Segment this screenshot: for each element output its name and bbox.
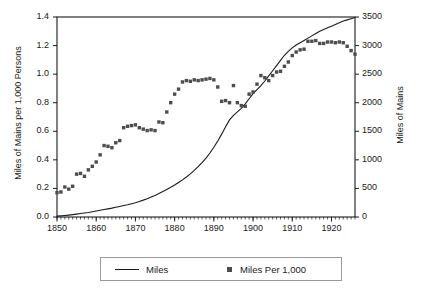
data-point-marker [126,125,129,128]
data-point-marker [142,127,145,130]
data-point-marker [208,77,211,80]
plot-frame [57,17,355,217]
data-point-marker [165,110,168,113]
data-point-marker [173,92,176,95]
data-point-marker [204,77,207,80]
y-tick-label-right: 3000 [362,40,396,50]
data-point-marker [298,48,301,51]
y-tick-label-left: 0.4 [19,154,49,164]
data-point-marker [161,121,164,124]
data-point-marker [169,101,172,104]
x-tick-label: 1870 [115,223,155,233]
data-point-marker [349,49,352,52]
chart-legend: Miles Miles Per 1,000 [100,257,342,281]
data-point-marker [102,144,105,147]
data-point-marker [251,90,254,93]
data-point-marker [345,45,348,48]
data-point-marker [122,126,125,129]
data-point-marker [130,124,133,127]
data-point-marker [114,141,117,144]
data-point-marker [55,191,58,194]
data-point-marker [314,39,317,42]
data-point-marker [98,153,101,156]
data-point-marker [353,52,356,55]
data-point-marker [247,92,250,95]
data-point-marker [138,126,141,129]
data-point-marker [302,47,305,50]
data-point-marker [87,168,90,171]
data-point-marker [228,101,231,104]
legend-label-miles-per-thousand: Miles Per 1,000 [240,264,306,275]
data-point-marker [271,74,274,77]
square-swatch-icon [227,267,232,272]
data-point-marker [149,128,152,131]
data-point-marker [118,139,121,142]
data-point-marker [342,41,345,44]
data-point-marker [283,65,286,68]
data-point-marker [75,172,78,175]
data-point-marker [193,78,196,81]
data-point-marker [263,76,266,79]
y-tick-label-left: 1.0 [19,68,49,78]
y-tick-label-left: 1.4 [19,11,49,21]
data-point-marker [200,78,203,81]
legend-item-miles: Miles [115,258,223,280]
data-point-marker [334,41,337,44]
y-tick-label-left: 0.6 [19,125,49,135]
data-point-marker [255,82,258,85]
y-tick-label-left: 0.0 [19,211,49,221]
data-point-marker [310,40,313,43]
data-point-marker [177,87,180,90]
y-tick-label-right: 3500 [362,11,396,21]
data-point-marker [294,50,297,53]
data-point-marker [224,99,227,102]
data-point-marker [59,190,62,193]
data-point-marker [267,79,270,82]
data-point-marker [240,104,243,107]
line-swatch-icon [115,269,139,270]
data-point-marker [110,146,113,149]
data-point-marker [71,185,74,188]
y-tick-label-right: 2000 [362,97,396,107]
y-tick-label-right: 1000 [362,154,396,164]
y-tick-label-left: 0.2 [19,182,49,192]
data-point-marker [216,85,219,88]
y-tick-label-right: 2500 [362,68,396,78]
data-point-marker [287,60,290,63]
data-point-marker [291,54,294,57]
data-point-marker [185,79,188,82]
x-tick-label: 1890 [194,223,234,233]
y-tick-label-left: 0.8 [19,97,49,107]
y-tick-label-left: 1.2 [19,40,49,50]
y-tick-label-right: 500 [362,182,396,192]
data-point-marker [275,70,278,73]
x-tick-label: 1860 [76,223,116,233]
data-point-marker [106,145,109,148]
data-point-marker [326,40,329,43]
data-point-marker [232,84,235,87]
x-tick-label: 1850 [37,223,77,233]
data-point-marker [189,80,192,83]
data-point-marker [322,42,325,45]
data-point-marker [67,187,70,190]
data-point-marker [318,42,321,45]
data-point-marker [145,129,148,132]
data-point-marker [79,172,82,175]
data-point-marker [157,120,160,123]
data-point-marker [181,80,184,83]
data-point-marker [83,175,86,178]
data-point-marker [338,40,341,43]
data-point-marker [153,129,156,132]
x-tick-label: 1910 [272,223,312,233]
data-point-marker [63,185,66,188]
legend-item-miles-per-thousand: Miles Per 1,000 [227,258,306,280]
data-point-marker [244,105,247,108]
y-tick-label-right: 0 [362,211,396,221]
y-tick-label-right: 1500 [362,125,396,135]
data-point-marker [330,40,333,43]
x-tick-label: 1920 [311,223,351,233]
data-point-marker [95,160,98,163]
legend-label-miles: Miles [146,264,168,275]
data-point-marker [212,78,215,81]
data-point-marker [259,74,262,77]
